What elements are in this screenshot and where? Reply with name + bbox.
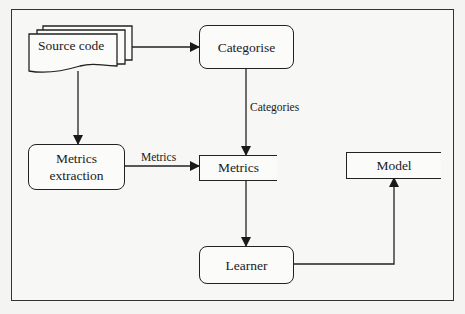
categorise-process: Categorise bbox=[199, 25, 294, 69]
model-data-store: Model bbox=[346, 152, 441, 179]
metrics-extraction-label: Metrics extraction bbox=[35, 150, 118, 184]
learner-process: Learner bbox=[199, 246, 294, 284]
metrics-data-store: Metrics bbox=[199, 155, 277, 181]
metrics-extraction-process: Metrics extraction bbox=[28, 144, 125, 190]
model-store-label: Model bbox=[376, 158, 411, 174]
source-code-label: Source code bbox=[38, 38, 104, 54]
categories-edge-label: Categories bbox=[250, 101, 299, 113]
metrics-store-label: Metrics bbox=[218, 160, 259, 176]
edge-learner-to-model bbox=[294, 178, 394, 264]
learner-label: Learner bbox=[226, 257, 268, 274]
metrics-edge-label: Metrics bbox=[141, 151, 176, 163]
categorise-label: Categorise bbox=[218, 39, 276, 56]
